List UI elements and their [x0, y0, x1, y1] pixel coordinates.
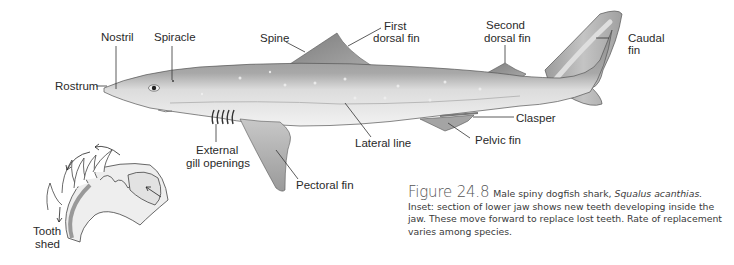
- label-spiracle: Spiracle: [154, 31, 196, 44]
- pectoral-fin: [240, 119, 291, 191]
- label-lateral-line: Lateral line: [355, 137, 411, 150]
- pelvic-fin: [420, 115, 474, 131]
- label-first-dorsal-fin-2: dorsal fin: [373, 32, 420, 45]
- figure-stage: Nostril Spiracle Rostrum Spine First dor…: [0, 0, 734, 265]
- label-second-dorsal-fin-2: dorsal fin: [484, 32, 531, 45]
- label-nostril: Nostril: [101, 31, 134, 44]
- figure-number: Figure 24.8: [408, 183, 489, 201]
- label-pectoral-fin: Pectoral fin: [296, 179, 354, 192]
- spiracle: [172, 80, 174, 82]
- label-spine: Spine: [260, 32, 289, 45]
- caption-prefix: Male spiny dogfish shark,: [493, 188, 614, 199]
- label-pelvic-fin: Pelvic fin: [475, 134, 521, 147]
- label-caudal-fin-2: fin: [628, 44, 640, 57]
- label-clasper: Clasper: [516, 112, 556, 125]
- caption-rest: Inset: section of lower jaw shows new te…: [408, 201, 722, 237]
- label-second-dorsal-fin-1: Second: [486, 19, 525, 32]
- label-gill-openings-1: External: [196, 144, 238, 157]
- label-tooth-shed-2: shed: [35, 238, 60, 251]
- species-name: Squalus acanthias.: [615, 188, 703, 199]
- label-tooth-shed-1: Tooth: [33, 225, 61, 238]
- label-rostrum: Rostrum: [55, 80, 98, 93]
- figure-caption: Figure 24.8Male spiny dogfish shark, Squ…: [408, 186, 730, 238]
- label-gill-openings-2: gill openings: [186, 157, 250, 170]
- jaw-inset: [47, 150, 168, 242]
